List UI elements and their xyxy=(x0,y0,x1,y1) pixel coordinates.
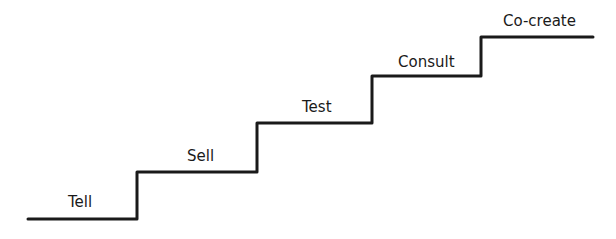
staircase-diagram: Tell Sell Test Consult Co-create xyxy=(0,0,616,239)
staircase-line xyxy=(0,0,616,239)
step-label-sell: Sell xyxy=(187,147,214,165)
step-label-tell: Tell xyxy=(68,193,92,211)
step-label-test: Test xyxy=(302,98,332,116)
step-label-co-create: Co-create xyxy=(503,12,576,30)
step-label-consult: Consult xyxy=(398,53,455,71)
